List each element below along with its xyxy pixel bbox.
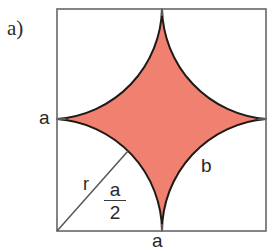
fraction-denominator: 2 [104,203,126,222]
astroid-shape [57,9,266,231]
fraction-bar [104,200,126,201]
arc-label-b: b [201,156,212,175]
panel-label: a) [7,18,23,39]
geometry-figure-panel-a: a) a a b r a 2 [0,0,275,250]
half-side-fraction: a 2 [104,180,126,222]
side-label-left: a [39,108,50,127]
fraction-numerator: a [104,180,126,199]
radius-label-r: r [83,175,89,193]
side-label-bottom: a [152,231,163,250]
